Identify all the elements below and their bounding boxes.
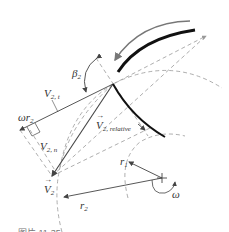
v2-label: V2 — [44, 184, 54, 197]
impeller-velocity-diagram: β2 V2, t ωr2 V2, n V2, relative V2 r1 r2… — [0, 0, 229, 232]
omega-label: ω — [172, 189, 180, 200]
beta2-label: β2 — [72, 68, 81, 81]
v2t-label: V2, t — [44, 88, 60, 101]
diagram-graphics — [0, 0, 229, 232]
blade-upper — [118, 30, 195, 72]
r1-label: r1 — [120, 156, 128, 169]
rotation-center-mark — [157, 173, 167, 183]
figure-caption: 图片 11-35 — [18, 226, 61, 232]
rotation-direction-arrow — [115, 21, 190, 60]
r2-label: r2 — [80, 200, 88, 213]
v2-relative-label: V2, relative — [96, 120, 131, 133]
omega-r2-label: ωr2 — [18, 112, 34, 125]
v2n-label: V2, n — [40, 141, 57, 154]
construction-lines — [20, 36, 206, 176]
beta2-arc — [84, 58, 97, 92]
r2-vector — [64, 178, 162, 197]
r1-vector — [129, 162, 162, 178]
